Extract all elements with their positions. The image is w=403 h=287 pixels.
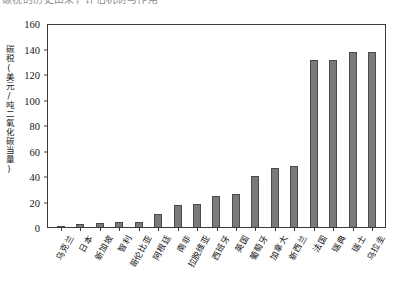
y-tick-label: 140 <box>0 44 46 55</box>
bar[interactable] <box>251 176 259 227</box>
y-tick-label: 0 <box>0 223 46 234</box>
bar-slot[interactable] <box>51 25 70 227</box>
y-tick-label: 100 <box>0 95 46 106</box>
bar-slot[interactable] <box>109 25 128 227</box>
bar-slot[interactable] <box>90 25 109 227</box>
bar-slot[interactable] <box>168 25 187 227</box>
x-tick-label: 南非 <box>173 232 192 254</box>
plot-area <box>47 24 386 228</box>
bar[interactable] <box>115 222 123 227</box>
y-tick-label: 20 <box>0 197 46 208</box>
y-tick-label: 120 <box>0 70 46 81</box>
bar[interactable] <box>212 196 220 227</box>
x-tick-mark <box>139 228 140 231</box>
x-tick-mark <box>294 228 295 231</box>
x-tick-label: 乌克兰 <box>52 232 75 261</box>
x-tick-label: 西班牙 <box>208 232 231 261</box>
x-tick-mark <box>158 228 159 231</box>
x-tick-mark <box>100 228 101 231</box>
x-tick-mark <box>217 228 218 231</box>
x-tick-label: 新西兰 <box>286 232 309 261</box>
bar-slot[interactable] <box>207 25 226 227</box>
bar-chart-figure: 碳税(美元/吨二氧化碳当量) 020406080100120140160 乌克兰… <box>0 11 403 287</box>
x-tick-mark <box>61 228 62 231</box>
x-tick-mark <box>255 228 256 231</box>
bar[interactable] <box>329 60 337 227</box>
bar[interactable] <box>135 222 143 227</box>
bar[interactable] <box>57 226 65 227</box>
bar-slot[interactable] <box>324 25 343 227</box>
x-tick-mark <box>119 228 120 231</box>
bar-slot[interactable] <box>265 25 284 227</box>
x-tick-label: 新加坡 <box>91 232 114 261</box>
bar-slot[interactable] <box>70 25 89 227</box>
bar-slot[interactable] <box>246 25 265 227</box>
x-tick-label: 智利 <box>115 232 134 254</box>
bar-slot[interactable] <box>148 25 167 227</box>
x-tick-mark <box>80 228 81 231</box>
x-tick-mark <box>333 228 334 231</box>
bar-slot[interactable] <box>226 25 245 227</box>
bar-slot[interactable] <box>129 25 148 227</box>
x-tick-label: 日本 <box>76 232 95 254</box>
x-tick-label: 英国 <box>232 232 251 254</box>
bar-slot[interactable] <box>285 25 304 227</box>
x-tick-label: 加拿大 <box>266 232 289 261</box>
bar[interactable] <box>154 214 162 227</box>
bar[interactable] <box>174 205 182 227</box>
x-tick-mark <box>353 228 354 231</box>
x-tick-mark <box>314 228 315 231</box>
x-tick-mark <box>178 228 179 231</box>
bar[interactable] <box>193 204 201 227</box>
x-tick-label: 瑞典 <box>329 232 348 254</box>
bar-slot[interactable] <box>187 25 206 227</box>
y-tick-label: 60 <box>0 146 46 157</box>
y-tick-label: 160 <box>0 19 46 30</box>
bar[interactable] <box>76 224 84 227</box>
x-tick-label: 葡萄牙 <box>247 232 270 261</box>
bar[interactable] <box>310 60 318 227</box>
bar-slot[interactable] <box>363 25 382 227</box>
bar[interactable] <box>232 194 240 227</box>
y-tick-label: 40 <box>0 172 46 183</box>
x-tick-mark <box>275 228 276 231</box>
bar[interactable] <box>290 166 298 227</box>
bar[interactable] <box>349 52 357 227</box>
x-tick-mark <box>372 228 373 231</box>
cropped-header-text-band: 碳税的历史由来，评估机制与作用 <box>0 0 403 11</box>
bar-slot[interactable] <box>343 25 362 227</box>
cropped-header-text: 碳税的历史由来，评估机制与作用 <box>2 0 158 6</box>
bar-slot[interactable] <box>304 25 323 227</box>
bar[interactable] <box>271 168 279 227</box>
y-tick-label: 80 <box>0 121 46 132</box>
bar[interactable] <box>368 52 376 227</box>
x-tick-label: 法国 <box>309 232 328 254</box>
bar[interactable] <box>96 223 104 227</box>
x-tick-mark <box>236 228 237 231</box>
bar-series <box>48 25 385 227</box>
x-tick-label: 瑞士 <box>348 232 367 254</box>
x-tick-mark <box>197 228 198 231</box>
